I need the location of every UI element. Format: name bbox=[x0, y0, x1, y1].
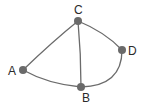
edge-a-c bbox=[23, 21, 78, 70]
edge-a-b bbox=[23, 70, 81, 87]
graph-diagram: A B C D bbox=[0, 0, 148, 105]
node-label-b: B bbox=[82, 91, 90, 105]
node-c bbox=[74, 17, 82, 25]
node-label-a: A bbox=[8, 64, 16, 78]
edge-c-d bbox=[78, 21, 122, 50]
node-a bbox=[19, 66, 27, 74]
edge-c-b bbox=[78, 21, 81, 87]
node-b bbox=[77, 83, 85, 91]
node-label-d: D bbox=[128, 44, 137, 58]
edge-d-b bbox=[81, 50, 122, 87]
node-label-c: C bbox=[74, 3, 83, 17]
node-d bbox=[118, 46, 126, 54]
